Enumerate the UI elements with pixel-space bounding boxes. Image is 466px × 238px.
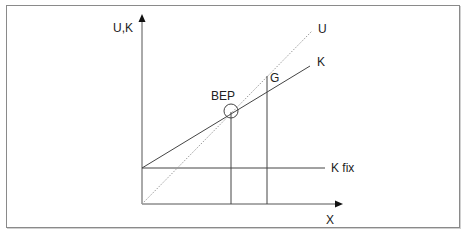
- x-axis-arrow-icon: [335, 201, 343, 208]
- k-fix-label: K fix: [331, 162, 354, 174]
- u-line-label: U: [318, 23, 327, 35]
- y-axis-arrow-icon: [139, 14, 146, 22]
- g-label: G: [270, 72, 279, 84]
- x-axis-label: X: [326, 214, 334, 226]
- k-line-label: K: [317, 56, 325, 68]
- y-axis-label: U,K: [113, 22, 133, 34]
- k-line: [142, 66, 310, 168]
- break-even-chart: [0, 0, 466, 238]
- bep-label: BEP: [211, 90, 235, 102]
- u-line: [142, 31, 312, 204]
